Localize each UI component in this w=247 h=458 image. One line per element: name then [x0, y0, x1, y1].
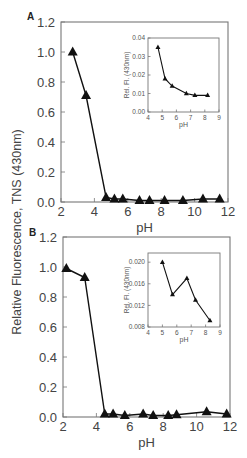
panel-b-main-y-tick-label: 0.2 — [39, 380, 57, 395]
panel-a-inset-y-tick-label: 0.01 — [132, 90, 145, 97]
panel-a-inset-x-tick-label: 6 — [175, 114, 179, 121]
panel-a-main-x-tick-label: 2 — [57, 204, 64, 219]
panel-letter-a: A — [27, 11, 34, 22]
panel-a-main-y-tick-label: 0.0 — [37, 195, 55, 210]
panel-b-inset-x-tick-label: 6 — [175, 329, 179, 336]
panel-b-main-data-point-triangle — [163, 410, 173, 419]
panel-a-main-data-point-triangle — [145, 195, 155, 204]
figure: Relative Fluorescence, TNS (430nm) A2468… — [0, 0, 247, 458]
panel-a-main-x-tick-label: 10 — [187, 204, 201, 219]
panel-a-main-data-point-triangle — [198, 193, 208, 202]
panel-b-main-y-tick-label: 0.4 — [39, 350, 57, 365]
panel-b-main-x-tick-label: 2 — [59, 419, 66, 434]
panel-a-main-x-tick-label: 8 — [158, 204, 165, 219]
panel-b-main-data-point-triangle — [138, 408, 148, 417]
shared-y-axis-label: Relative Fluorescence, TNS (430nm) — [10, 129, 24, 334]
panel-b-main-y-tick-label: 0.0 — [39, 410, 57, 425]
panel-a-main-data-point-triangle — [81, 90, 91, 99]
panel-b-main-x-tick-label: 4 — [93, 419, 100, 434]
panel-b-inset-plot-frame — [148, 253, 220, 327]
panel-b-inset-x-tick-label: 7 — [189, 329, 193, 336]
panel-b-inset-y-tick-label: 0.008 — [129, 323, 146, 330]
panel-a-inset-x-tick-label: 4 — [146, 114, 150, 121]
panel-a-main-x-axis-label: pH — [136, 220, 153, 235]
panel-b-main-x-tick-label: 6 — [126, 419, 133, 434]
panel-a-inset-y-tick-label: 0.04 — [132, 34, 145, 41]
panel-a-main-data-point-triangle — [215, 193, 225, 202]
panel-b-main-y-tick-label: 0.8 — [39, 290, 57, 305]
panel-a-main-y-tick-label: 0.4 — [37, 135, 55, 150]
panel-a-inset-y-tick-label: 0.00 — [132, 108, 145, 115]
panel-b-main-x-axis-label: pH — [138, 435, 155, 450]
panel-a-main-x-tick-label: 4 — [91, 204, 98, 219]
panel-b-inset: 4567890.0080.0120.0160.020pHRel. Fl. (43… — [123, 253, 222, 344]
panel-a-main-data-point-triangle — [101, 192, 111, 201]
panel-b-inset-x-axis-label: pH — [180, 336, 189, 344]
panel-a-main-data-point-triangle — [134, 195, 144, 204]
panel-b-main-data-point-triangle — [202, 406, 212, 415]
panel-b-inset-x-tick-label: 5 — [161, 329, 165, 336]
panel-a-main-data-point-triangle — [178, 195, 188, 204]
panel-b-inset-y-tick-label: 0.016 — [129, 280, 146, 287]
panel-a-main-y-tick-label: 0.2 — [37, 165, 55, 180]
panel-b-inset-x-tick-label: 9 — [218, 329, 222, 336]
panel-a-main-x-tick-label: 12 — [221, 204, 235, 219]
panel-a-inset-y-tick-label: 0.03 — [132, 53, 145, 60]
panel-a-main-data-point-triangle — [118, 193, 128, 202]
panel-a-main-data-point-triangle — [68, 46, 78, 55]
panel-b-main-data-point-triangle — [100, 408, 110, 417]
panel-b-main-x-tick-label: 10 — [189, 419, 203, 434]
panel-a-main-y-tick-label: 1.0 — [37, 45, 55, 60]
panel-a-main-y-tick-label: 0.8 — [37, 75, 55, 90]
panel-b-inset-y-tick-label: 0.012 — [129, 302, 146, 309]
panel-a-main-y-tick-label: 1.2 — [37, 15, 55, 30]
panel-a-inset-x-tick-label: 5 — [160, 114, 164, 121]
panel-b-inset-x-tick-label: 4 — [146, 329, 150, 336]
panel-b-main-x-tick-label: 12 — [223, 419, 237, 434]
panel-letter-b: B — [29, 227, 36, 238]
panel-a-main-y-tick-label: 0.6 — [37, 105, 55, 120]
panel-b-main-y-tick-label: 0.6 — [39, 320, 57, 335]
panel-a-inset-y-axis-label: Rel. Fl. (430nm) — [123, 52, 131, 99]
panel-b-main-data-point-triangle — [108, 408, 118, 417]
panel-b-main-x-tick-label: 8 — [160, 419, 167, 434]
panel-a-inset: 4567890.000.010.020.030.04pHRel. Fl. (43… — [123, 34, 221, 129]
panel-b: B246810120.00.20.40.60.81.01.2pH4567890.… — [29, 227, 237, 450]
panel-a-main-x-tick-label: 6 — [124, 204, 131, 219]
panel-a-inset-x-tick-label: 8 — [203, 114, 207, 121]
panel-a-inset-x-tick-label: 7 — [189, 114, 193, 121]
panel-b-inset-y-axis-label: Rel. Fl. (430nm) — [123, 267, 131, 314]
panel-b-main-y-tick-label: 1.2 — [39, 230, 57, 245]
panel-b-main-data-point-triangle — [172, 409, 182, 418]
panel-a-inset-x-tick-label: 9 — [217, 114, 221, 121]
panel-a-inset-y-tick-label: 0.02 — [132, 71, 145, 78]
panel-b-inset-x-tick-label: 8 — [204, 329, 208, 336]
panel-a-inset-x-axis-label: pH — [179, 121, 188, 129]
panel-b-inset-y-tick-label: 0.020 — [129, 258, 146, 265]
panel-b-main-y-tick-label: 1.0 — [39, 260, 57, 275]
panel-a: A246810120.00.20.40.60.81.01.2pH4567890.… — [27, 11, 235, 235]
